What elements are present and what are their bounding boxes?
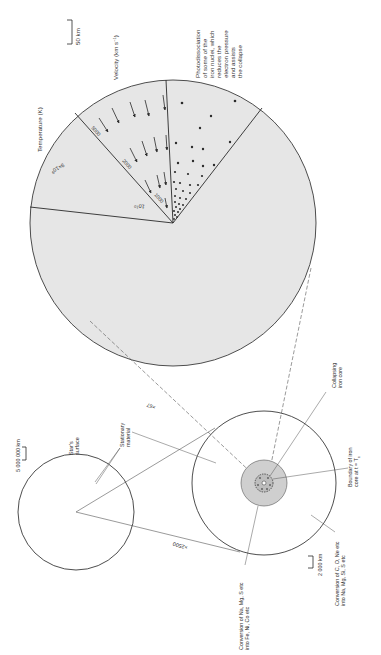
collapsing-core-label: Collapsing iron core (331, 361, 343, 388)
svg-text:electron pressure: electron pressure (222, 30, 229, 78)
scale-bar-5000000km: 5 000 000 km (15, 439, 26, 472)
svg-text:50 km: 50 km (74, 28, 81, 45)
scale-bar-50km: 50 km (67, 20, 81, 45)
surface-leader (96, 448, 120, 484)
stationary-leader-star (95, 448, 120, 482)
star-surface-label: Star's surface (68, 437, 80, 455)
svg-text:of some of the: of some of the (201, 38, 208, 78)
x2500-line-lower (76, 512, 240, 552)
svg-text:5 000 000 km: 5 000 000 km (15, 439, 21, 472)
supernova-collapse-diagram: Temperature (K) 9×109 1010 5000 2000 100… (0, 0, 381, 655)
photodissociation-label: Photodissociation of some of the iron nu… (194, 29, 243, 78)
svg-text:iron nuclei, which: iron nuclei, which (208, 30, 215, 78)
temperature-title: Temperature (K) (36, 107, 43, 152)
scale-bar-2000km: 2 000 km (308, 553, 323, 576)
shell-leaders (132, 392, 348, 565)
x2500-label: ×2500 (172, 541, 188, 551)
conversion-outer-label: Conversion of C, O, Ne etc into Na, Mg, … (334, 540, 346, 606)
stationary-material-label: Stationary material (119, 421, 131, 447)
collapsing-core-view: Temperature (K) 9×109 1010 5000 2000 100… (30, 20, 316, 366)
svg-text:reduces the: reduces the (215, 45, 222, 78)
svg-text:and assists: and assists (229, 47, 236, 78)
conversion-inner-label: Conversion of Na, Mg, S etc into Fe, Ni,… (238, 581, 250, 650)
shell-view: Stationary material Boundary of iron cor… (119, 361, 361, 650)
svg-text:2 000 km: 2 000 km (317, 553, 323, 576)
x67-label: ×67 (146, 402, 157, 411)
boundary-label: Boundary of iron core at t = Tc (347, 446, 361, 487)
svg-text:Photodissociation: Photodissociation (194, 29, 201, 78)
iron-core-centre (262, 481, 266, 485)
svg-text:the collapse: the collapse (236, 44, 243, 78)
star-view: 5 000 000 km Star's surface (15, 437, 134, 570)
velocity-title: Velocity (km s−1) (112, 35, 119, 80)
